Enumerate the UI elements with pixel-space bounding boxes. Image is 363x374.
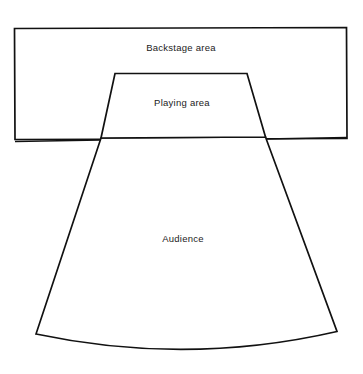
diagram-canvas: [0, 0, 363, 374]
theatre-layout-diagram: Backstage area Playing area Audience: [0, 0, 363, 374]
playing-area-label: Playing area: [154, 97, 210, 108]
backstage-area-label: Backstage area: [146, 42, 216, 53]
audience-area-label: Audience: [162, 233, 204, 244]
